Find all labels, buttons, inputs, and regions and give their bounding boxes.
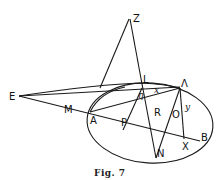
label-P: P [121, 117, 127, 128]
label-O: O [172, 109, 180, 120]
label-Z: Z [133, 13, 140, 24]
label-X: X [182, 141, 189, 152]
label-L: L [143, 74, 149, 85]
label-angle-eta: η [138, 90, 144, 100]
label-angle-y: y [184, 102, 191, 112]
label-A: A [90, 115, 97, 126]
line-Lambda-X [180, 88, 184, 139]
label-angle-x: x [154, 85, 159, 95]
label-Lambda: Λ [181, 78, 188, 89]
geometry-diagram: Z L E M A P R Λ O B X N x y η Fig. 7 [0, 0, 219, 180]
figure-caption: Fig. 7 [94, 168, 126, 178]
label-E: E [9, 91, 15, 102]
label-R: R [154, 107, 161, 118]
label-N: N [157, 148, 164, 159]
ellipse [84, 79, 215, 168]
label-B: B [201, 132, 208, 143]
label-M: M [64, 104, 73, 115]
line-Z-A [100, 19, 129, 88]
line-Z-L [130, 19, 142, 84]
